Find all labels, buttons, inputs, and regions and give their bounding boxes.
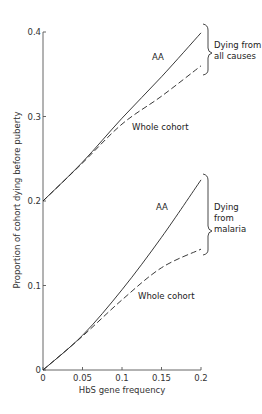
upper-brace-icon — [203, 24, 212, 75]
series-line-2 — [43, 180, 201, 370]
series-line-0 — [43, 33, 201, 201]
upper-group-label: Dying from all causes — [214, 40, 262, 61]
lower-group-label: Dying from malaria — [214, 202, 246, 234]
series-line-1 — [43, 66, 201, 201]
y-tick-label: 0.4 — [27, 27, 41, 37]
x-tick-label: 0.15 — [152, 373, 171, 383]
lower-brace-icon — [203, 174, 212, 255]
y-tick-label: 0.3 — [27, 112, 41, 122]
x-tick-label: 0.05 — [73, 373, 92, 383]
series-line-3 — [43, 249, 201, 370]
upper-aa-label: AA — [152, 52, 164, 62]
x-tick-label: 0.2 — [194, 373, 208, 383]
lower-aa-label: AA — [156, 202, 168, 212]
y-tick-label: 0.1 — [27, 281, 41, 291]
series-group — [43, 33, 201, 370]
upper-whole-cohort-label: Whole cohort — [132, 122, 189, 132]
chart: 00.10.20.30.4 00.050.10.150.2 Proportion… — [0, 0, 262, 414]
x-ticks: 00.050.10.150.2 — [40, 367, 207, 383]
lower-whole-cohort-label: Whole cohort — [138, 291, 195, 301]
y-tick-label: 0.2 — [27, 196, 41, 206]
y-axis-label: Proportion of cohort dying before pubert… — [12, 111, 22, 288]
x-axis-label: HbS gene frequency — [79, 385, 165, 395]
x-tick-label: 0.1 — [115, 373, 129, 383]
x-tick-label: 0 — [40, 373, 45, 383]
